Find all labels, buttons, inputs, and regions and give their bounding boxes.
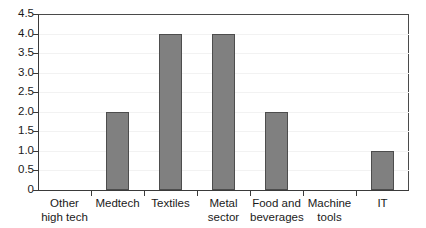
category-label-line2: tools bbox=[303, 210, 356, 224]
y-tick-mark bbox=[33, 14, 38, 15]
y-tick-mark bbox=[33, 112, 38, 113]
x-axis-category-label: Otherhigh tech bbox=[38, 196, 91, 224]
y-tick-label: 1.5 bbox=[0, 126, 34, 138]
y-axis: 00.51.01.52.02.53.03.54.04.5 bbox=[0, 0, 34, 228]
category-label-line2: sector bbox=[197, 210, 250, 224]
x-axis-tick bbox=[197, 191, 198, 196]
x-axis-category-label: IT bbox=[356, 196, 409, 210]
x-axis-category-label: Metalsector bbox=[197, 196, 250, 224]
x-axis-line bbox=[38, 190, 409, 191]
x-axis-tick bbox=[303, 191, 304, 196]
y-tick-label: 0 bbox=[0, 184, 34, 196]
x-axis-tick bbox=[144, 191, 145, 196]
bars-layer bbox=[38, 14, 409, 190]
y-tick-mark bbox=[33, 92, 38, 93]
y-tick-mark bbox=[33, 170, 38, 171]
x-axis-tick bbox=[91, 191, 92, 196]
category-label-line1: Food and bbox=[252, 197, 301, 209]
category-label-line1: Medtech bbox=[95, 197, 139, 209]
y-tick-mark bbox=[33, 190, 38, 191]
x-axis-category-label: Medtech bbox=[91, 196, 144, 210]
category-label-line1: IT bbox=[377, 197, 387, 209]
x-axis-tick bbox=[356, 191, 357, 196]
y-tick-label: 4.5 bbox=[0, 8, 34, 20]
y-tick-label: 4.0 bbox=[0, 28, 34, 40]
y-tick-mark bbox=[33, 151, 38, 152]
y-tick-mark bbox=[33, 34, 38, 35]
bar bbox=[159, 34, 182, 190]
y-tick-label: 0.5 bbox=[0, 165, 34, 177]
bar-chart: 00.51.01.52.02.53.03.54.04.5 Otherhigh t… bbox=[0, 0, 426, 228]
y-tick-label: 2.0 bbox=[0, 106, 34, 118]
y-tick-mark bbox=[33, 53, 38, 54]
bar bbox=[106, 112, 129, 190]
x-axis-category-label: Textiles bbox=[144, 196, 197, 210]
category-label-line1: Machine bbox=[308, 197, 351, 209]
x-axis-tick bbox=[250, 191, 251, 196]
bar bbox=[212, 34, 235, 190]
category-label-line1: Metal bbox=[209, 197, 237, 209]
x-axis-category-label: Machinetools bbox=[303, 196, 356, 224]
y-tick-label: 3.5 bbox=[0, 47, 34, 59]
category-label-line1: Textiles bbox=[151, 197, 189, 209]
category-label-line2: high tech bbox=[38, 210, 91, 224]
bar bbox=[371, 151, 394, 190]
y-tick-label: 1.0 bbox=[0, 145, 34, 157]
y-tick-label: 2.5 bbox=[0, 86, 34, 98]
y-tick-mark bbox=[33, 131, 38, 132]
x-axis-category-label: Food andbeverages bbox=[250, 196, 303, 224]
category-label-line1: Other bbox=[50, 197, 79, 209]
y-tick-mark bbox=[33, 73, 38, 74]
bar bbox=[265, 112, 288, 190]
category-label-line2: beverages bbox=[250, 210, 303, 224]
y-tick-label: 3.0 bbox=[0, 67, 34, 79]
